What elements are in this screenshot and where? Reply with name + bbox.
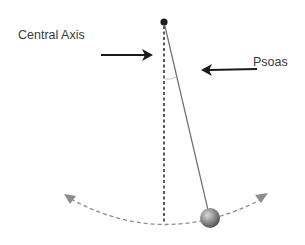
pendulum-diagram: Central Axis Psoas bbox=[0, 0, 305, 245]
pivot-point bbox=[160, 18, 167, 25]
pendulum-rod bbox=[164, 22, 208, 210]
central-axis-label: Central Axis bbox=[18, 28, 85, 42]
pendulum-bob bbox=[200, 208, 220, 228]
swing-arc-left-arrowhead bbox=[64, 194, 76, 204]
central-axis-arrow bbox=[101, 49, 153, 61]
angle-marker bbox=[165, 77, 176, 79]
psoas-arrow bbox=[201, 64, 257, 76]
psoas-label: Psoas bbox=[253, 55, 288, 69]
swing-arc-right-arrowhead bbox=[255, 193, 268, 203]
swing-arc bbox=[71, 199, 262, 225]
